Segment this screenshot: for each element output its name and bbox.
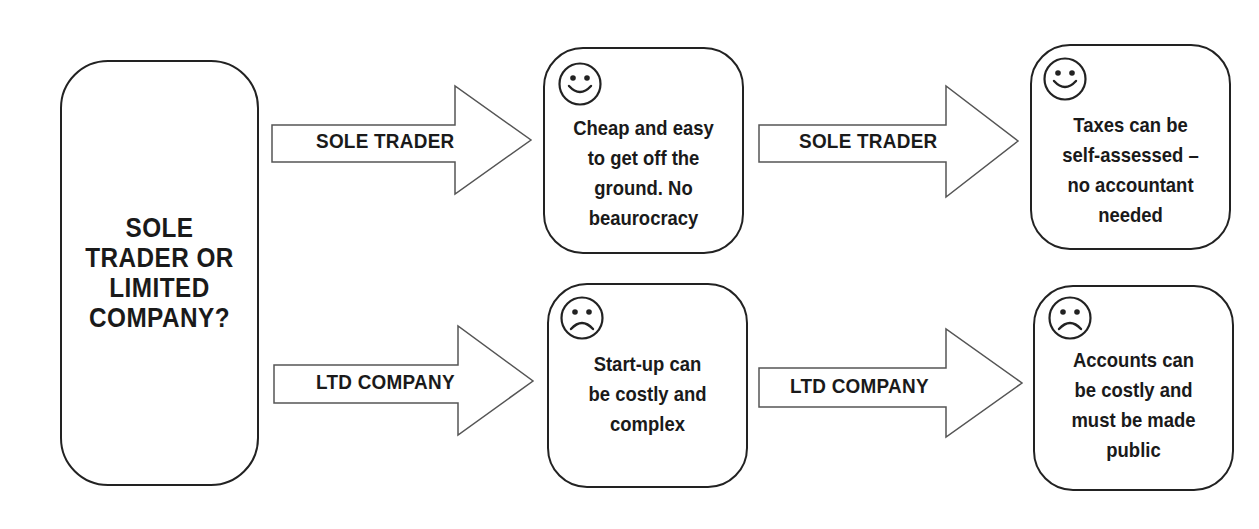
drawback-text: Start-up can be costly and complex — [564, 349, 731, 439]
arrow-label: SOLE TRADER — [799, 129, 937, 153]
arrow-label: LTD COMPANY — [316, 370, 455, 394]
sole-trader-benefit-1-box: Cheap and easy to get off the ground. No… — [543, 47, 744, 254]
frowning-face-icon — [559, 295, 605, 341]
ltd-company-drawback-2-box: Accounts can be costly and must be made … — [1033, 285, 1234, 491]
question-title: SOLE TRADER OR LIMITED COMPANY? — [85, 213, 234, 333]
arrow-label: SOLE TRADER — [316, 129, 454, 153]
arrow-sole-trader-2: SOLE TRADER — [759, 86, 1019, 198]
arrow-label: LTD COMPANY — [790, 374, 929, 398]
sole-trader-benefit-2-box: Taxes can be self-assessed – no accounta… — [1030, 44, 1231, 250]
question-box: SOLE TRADER OR LIMITED COMPANY? — [60, 60, 259, 486]
benefit-text: Cheap and easy to get off the ground. No… — [560, 113, 727, 233]
arrow-sole-trader-1: SOLE TRADER — [272, 86, 532, 196]
smiley-face-icon — [557, 61, 603, 107]
benefit-text: Taxes can be self-assessed – no accounta… — [1047, 110, 1214, 230]
drawback-text: Accounts can be costly and must be made … — [1050, 345, 1217, 465]
ltd-company-drawback-1-box: Start-up can be costly and complex — [547, 283, 748, 488]
arrow-ltd-company-1: LTD COMPANY — [274, 326, 534, 436]
arrow-ltd-company-2: LTD COMPANY — [759, 329, 1023, 439]
frowning-face-icon — [1047, 295, 1093, 341]
smiley-face-icon — [1042, 56, 1088, 102]
